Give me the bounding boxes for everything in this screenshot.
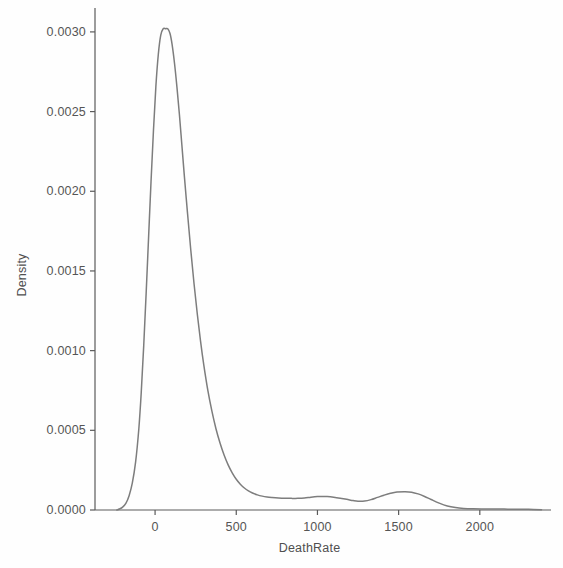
y-tick-label: 0.0000 (28, 503, 86, 517)
x-tick-label: 1000 (303, 520, 332, 534)
density-plot-figure: 0.00000.00050.00100.00150.00200.00250.00… (0, 0, 563, 568)
y-axis-label: Density (15, 253, 29, 296)
plot-canvas (0, 0, 563, 568)
y-tick-label: 0.0025 (28, 105, 86, 119)
density-curve (117, 28, 542, 510)
x-tick-label: 500 (226, 520, 247, 534)
x-axis-ticks (155, 510, 480, 515)
x-tick-label: 2000 (465, 520, 494, 534)
y-tick-label: 0.0015 (28, 264, 86, 278)
x-axis-label: DeathRate (279, 541, 341, 555)
y-tick-label: 0.0030 (28, 25, 86, 39)
y-tick-label: 0.0005 (28, 423, 86, 437)
y-axis-ticks (90, 32, 95, 510)
y-tick-label: 0.0020 (28, 184, 86, 198)
x-tick-label: 0 (151, 520, 158, 534)
x-tick-label: 1500 (384, 520, 413, 534)
y-tick-label: 0.0010 (28, 344, 86, 358)
